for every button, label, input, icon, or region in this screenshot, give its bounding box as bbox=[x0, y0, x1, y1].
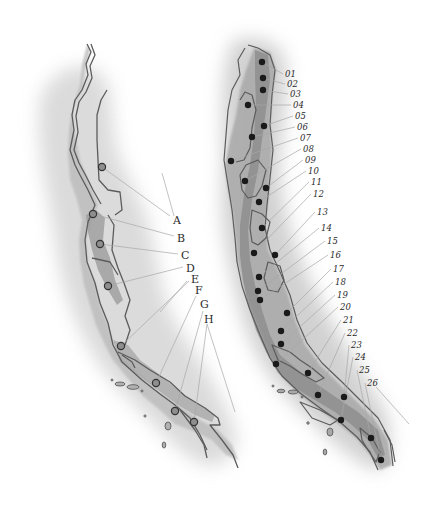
site-marker-01 bbox=[259, 59, 265, 65]
site-label-21: 21 bbox=[342, 315, 354, 325]
site-marker-c bbox=[96, 240, 103, 247]
site-label-10: 10 bbox=[308, 166, 319, 176]
site-label-07: 07 bbox=[300, 133, 311, 143]
site-label-25: 25 bbox=[358, 365, 370, 375]
leader-line bbox=[162, 173, 174, 216]
site-label-09: 09 bbox=[305, 155, 316, 165]
site-label-15: 15 bbox=[327, 236, 338, 246]
site-label-02: 02 bbox=[287, 79, 298, 89]
site-label-g: G bbox=[200, 298, 209, 311]
left-map-labels: ABCDEFGH bbox=[172, 214, 214, 326]
right-map: 0102030405060708091011121314151617181920… bbox=[222, 38, 409, 470]
site-marker-13 bbox=[272, 252, 278, 258]
site-marker-20 bbox=[273, 361, 279, 367]
site-marker-24 bbox=[338, 417, 344, 423]
site-label-24: 24 bbox=[354, 352, 366, 362]
site-label-20: 20 bbox=[339, 302, 351, 312]
site-marker-16 bbox=[257, 297, 263, 303]
site-label-26: 26 bbox=[366, 378, 378, 388]
site-label-03: 03 bbox=[290, 89, 301, 99]
map-figure: ABCDEFGH bbox=[0, 0, 435, 514]
site-marker-26 bbox=[378, 457, 384, 463]
site-label-08: 08 bbox=[303, 144, 314, 154]
site-label-a: A bbox=[172, 214, 182, 227]
site-marker-12 bbox=[251, 250, 257, 256]
site-marker-b bbox=[89, 210, 96, 217]
site-marker-19 bbox=[278, 341, 284, 347]
site-marker-a bbox=[98, 163, 105, 170]
site-marker-02 bbox=[260, 75, 266, 81]
site-label-11: 11 bbox=[311, 177, 322, 187]
site-label-19: 19 bbox=[337, 290, 348, 300]
site-marker-g bbox=[171, 407, 178, 414]
site-label-05: 05 bbox=[295, 111, 306, 121]
site-marker-09 bbox=[263, 185, 269, 191]
site-marker-18 bbox=[278, 328, 284, 334]
site-marker-25 bbox=[368, 435, 374, 441]
site-marker-07 bbox=[228, 158, 234, 164]
site-marker-14 bbox=[256, 274, 262, 280]
site-marker-05 bbox=[261, 123, 267, 129]
site-label-23: 23 bbox=[350, 340, 362, 350]
site-label-c: C bbox=[181, 249, 189, 262]
site-label-22: 22 bbox=[346, 328, 358, 338]
site-label-04: 04 bbox=[293, 100, 304, 110]
site-marker-21 bbox=[305, 370, 311, 376]
site-label-17: 17 bbox=[333, 264, 344, 274]
site-marker-23 bbox=[341, 394, 347, 400]
site-marker-17 bbox=[284, 310, 290, 316]
site-label-12: 12 bbox=[313, 189, 324, 199]
site-marker-06 bbox=[249, 134, 255, 140]
site-label-06: 06 bbox=[297, 122, 308, 132]
site-marker-08 bbox=[242, 178, 248, 184]
site-marker-d bbox=[104, 282, 111, 289]
site-marker-04 bbox=[245, 102, 251, 108]
map-canvas: ABCDEFGH bbox=[0, 0, 435, 514]
site-marker-15 bbox=[255, 288, 261, 294]
site-label-14: 14 bbox=[321, 223, 332, 233]
site-label-h: H bbox=[204, 313, 214, 326]
site-marker-11 bbox=[259, 225, 265, 231]
site-marker-f bbox=[152, 379, 159, 386]
site-marker-22 bbox=[315, 392, 321, 398]
site-marker-e bbox=[117, 342, 124, 349]
site-label-16: 16 bbox=[330, 250, 341, 260]
site-marker-h bbox=[190, 418, 197, 425]
site-label-b: B bbox=[177, 232, 185, 245]
site-label-13: 13 bbox=[317, 207, 328, 217]
left-map: ABCDEFGH bbox=[39, 44, 238, 468]
site-label-f: F bbox=[195, 284, 203, 297]
site-marker-10 bbox=[256, 199, 262, 205]
site-label-01: 01 bbox=[285, 69, 296, 79]
site-marker-03 bbox=[260, 87, 266, 93]
left-map-wash bbox=[39, 66, 236, 466]
site-label-18: 18 bbox=[335, 277, 346, 287]
